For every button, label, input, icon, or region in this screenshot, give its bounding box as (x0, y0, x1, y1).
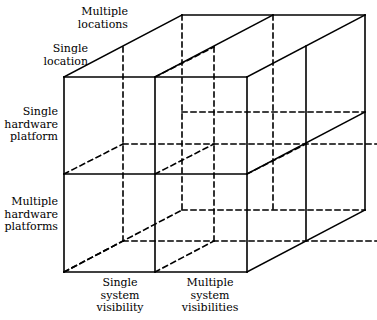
label-single-location-line1: Single (0, 43, 88, 56)
hidden-edges-group (64, 15, 377, 272)
hidden-bottomplane-depth-mid (155, 241, 214, 272)
label-multiple-locations: Multiple locations (0, 6, 128, 31)
label-multiple-hardware-platforms-line3: platforms (0, 221, 58, 234)
label-single-system-visibility-line1: Single (86, 277, 154, 290)
label-multiple-system-visibilities-line3: visibilities (167, 302, 253, 315)
label-multiple-locations-line1: Multiple (0, 6, 128, 19)
hidden-midplane-depth-mid (155, 144, 214, 174)
label-single-hardware-platform: Single hardware platform (0, 106, 58, 144)
label-single-hardware-platform-line1: Single (0, 106, 58, 119)
label-single-hardware-platform-line3: platform (0, 131, 58, 144)
label-multiple-hardware-platforms-line1: Multiple (0, 196, 58, 209)
label-single-system-visibility: Single system visibility (86, 277, 154, 315)
diagram-canvas: Multiple locations Single location Singl… (0, 0, 377, 320)
label-single-system-visibility-line3: visibility (86, 302, 154, 315)
label-single-location-line2: location (0, 56, 88, 69)
label-multiple-system-visibilities: Multiple system visibilities (167, 277, 253, 315)
label-multiple-locations-line2: locations (0, 19, 128, 32)
label-multiple-hardware-platforms: Multiple hardware platforms (0, 196, 58, 234)
hidden-midplane-depth-left (64, 144, 123, 174)
label-single-location: Single location (0, 43, 88, 68)
label-multiple-system-visibilities-line1: Multiple (167, 277, 253, 290)
